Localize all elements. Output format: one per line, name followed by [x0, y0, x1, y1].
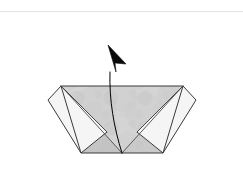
fold-direction-arrowhead-icon [108, 45, 126, 72]
diagram-canvas [0, 0, 243, 180]
origami-fold-diagram [0, 0, 243, 180]
